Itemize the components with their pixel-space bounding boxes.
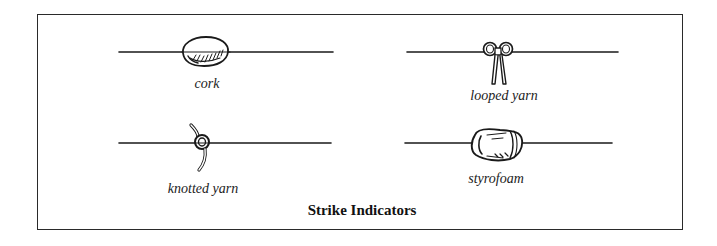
knotted-yarn-illustration — [119, 125, 331, 170]
label-knotted-yarn: knotted yarn — [168, 181, 238, 197]
knotted-yarn-icon — [191, 125, 209, 170]
looped-yarn-illustration — [407, 43, 618, 85]
cork-bead-icon — [182, 37, 230, 66]
cork-illustration — [119, 37, 333, 66]
label-looped-yarn: looped yarn — [470, 88, 537, 104]
figure-title: Strike Indicators — [308, 202, 417, 219]
styrofoam-illustration — [405, 129, 612, 160]
styrofoam-bead-icon — [472, 129, 522, 160]
label-cork: cork — [195, 76, 220, 92]
looped-yarn-icon — [484, 43, 513, 85]
label-styrofoam: styrofoam — [468, 171, 523, 187]
